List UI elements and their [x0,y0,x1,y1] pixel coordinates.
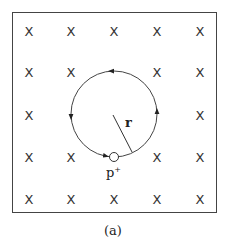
field-x-marker: X [196,150,205,165]
field-x-marker: X [25,65,34,80]
field-x-marker: X [196,192,205,207]
field-x-marker: X [153,65,162,80]
field-x-marker: X [196,108,205,123]
field-x-marker: X [67,24,76,39]
field-x-marker: X [110,24,119,39]
field-x-marker: X [25,108,34,123]
field-x-marker: X [110,192,119,207]
field-region-border [13,13,217,213]
field-into-page-markers: XXXXXXXXXXXXXXXXXXXX [25,24,205,207]
radius-label: r [125,115,132,130]
figure-caption: (a) [104,223,122,238]
proton-particle [110,153,119,162]
field-x-marker: X [153,192,162,207]
particle-label: p+ [106,165,121,180]
field-x-marker: X [25,192,34,207]
field-x-marker: X [67,192,76,207]
orbit-circle [71,71,157,157]
field-x-marker: X [25,24,34,39]
magnetic-field-diagram: XXXXXXXXXXXXXXXXXXXX r p+ (a) [0,0,226,240]
field-x-marker: X [153,150,162,165]
field-x-marker: X [196,65,205,80]
field-x-marker: X [25,150,34,165]
field-x-marker: X [67,150,76,165]
field-x-marker: X [67,65,76,80]
field-x-marker: X [196,24,205,39]
field-x-marker: X [153,24,162,39]
